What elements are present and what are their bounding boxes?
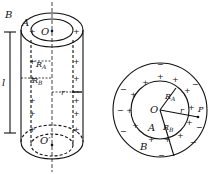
label-l: l <box>2 77 5 88</box>
label-O-prime: O′ <box>40 135 51 146</box>
diagram-canvas: B A O O′ l RA RB r + + + + + + + + + + +… <box>0 0 208 174</box>
svg-text:−: − <box>158 151 165 160</box>
svg-text:+: + <box>73 27 80 36</box>
svg-text:+: + <box>73 74 80 83</box>
svg-text:+: + <box>157 72 164 81</box>
label-O: O <box>41 26 49 37</box>
svg-text:+: + <box>132 121 139 130</box>
top-center-dot <box>51 30 54 33</box>
cs-label-RB: RB <box>162 123 174 133</box>
svg-text:+: + <box>73 96 80 105</box>
svg-text:+: + <box>142 78 149 87</box>
cs-label-O: O <box>150 104 158 115</box>
cs-label-r: r <box>180 106 185 115</box>
cs-label-B: B <box>139 141 147 152</box>
svg-text:+: + <box>164 135 171 144</box>
cs-label-RA: RA <box>164 92 176 102</box>
svg-text:+: + <box>29 109 36 118</box>
svg-text:+: + <box>29 96 36 105</box>
cs-label-P: P <box>197 105 204 114</box>
svg-text:+: + <box>130 90 137 99</box>
svg-text:+: + <box>172 75 179 84</box>
svg-text:−: − <box>157 60 164 69</box>
svg-text:−: − <box>117 106 124 115</box>
svg-text:+: + <box>148 135 155 144</box>
cs-plus-signs: + + + + + + + + + + + + <box>126 72 195 144</box>
label-A: A <box>21 17 29 28</box>
svg-text:−: − <box>120 85 127 94</box>
svg-text:+: + <box>29 125 36 134</box>
cs-label-A: A <box>147 122 155 133</box>
svg-text:+: + <box>73 109 80 118</box>
svg-text:−: − <box>196 123 203 132</box>
svg-text:+: + <box>126 106 133 115</box>
svg-text:+: + <box>73 125 80 134</box>
label-r: r <box>61 88 66 97</box>
svg-text:+: + <box>184 86 191 95</box>
svg-text:+: + <box>29 27 36 36</box>
svg-text:−: − <box>120 127 127 136</box>
svg-text:+: + <box>177 131 184 140</box>
svg-text:−: − <box>190 138 197 147</box>
svg-text:+: + <box>73 57 80 66</box>
bottom-center-dot <box>51 144 54 147</box>
svg-text:+: + <box>29 74 36 83</box>
label-RA: RA <box>35 60 47 70</box>
svg-text:+: + <box>188 103 195 112</box>
point-P-dot <box>197 116 200 119</box>
svg-text:+: + <box>29 57 36 66</box>
label-B: B <box>4 9 12 20</box>
svg-text:−: − <box>192 80 199 89</box>
svg-text:+: + <box>186 118 193 127</box>
